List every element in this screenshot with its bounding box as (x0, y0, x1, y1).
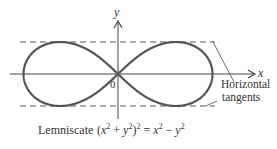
caption: Lemniscate (x2 + y2)2 = x2 − y2 (38, 122, 185, 137)
annotation-line-1: Horizontal (221, 78, 270, 90)
caption-prefix: Lemniscate (38, 123, 93, 137)
caption-equation: (x2 + y2)2 = x2 − y2 (97, 122, 185, 137)
leader-line-top (213, 42, 234, 82)
lemniscate-figure: y x 0 Horizontal tangents Lemniscate (x2… (0, 0, 277, 149)
y-axis-label: y (113, 5, 120, 19)
origin-label: 0 (110, 78, 116, 90)
annotation-line-2: tangents (222, 91, 261, 104)
leader-line-bottom (206, 101, 217, 106)
